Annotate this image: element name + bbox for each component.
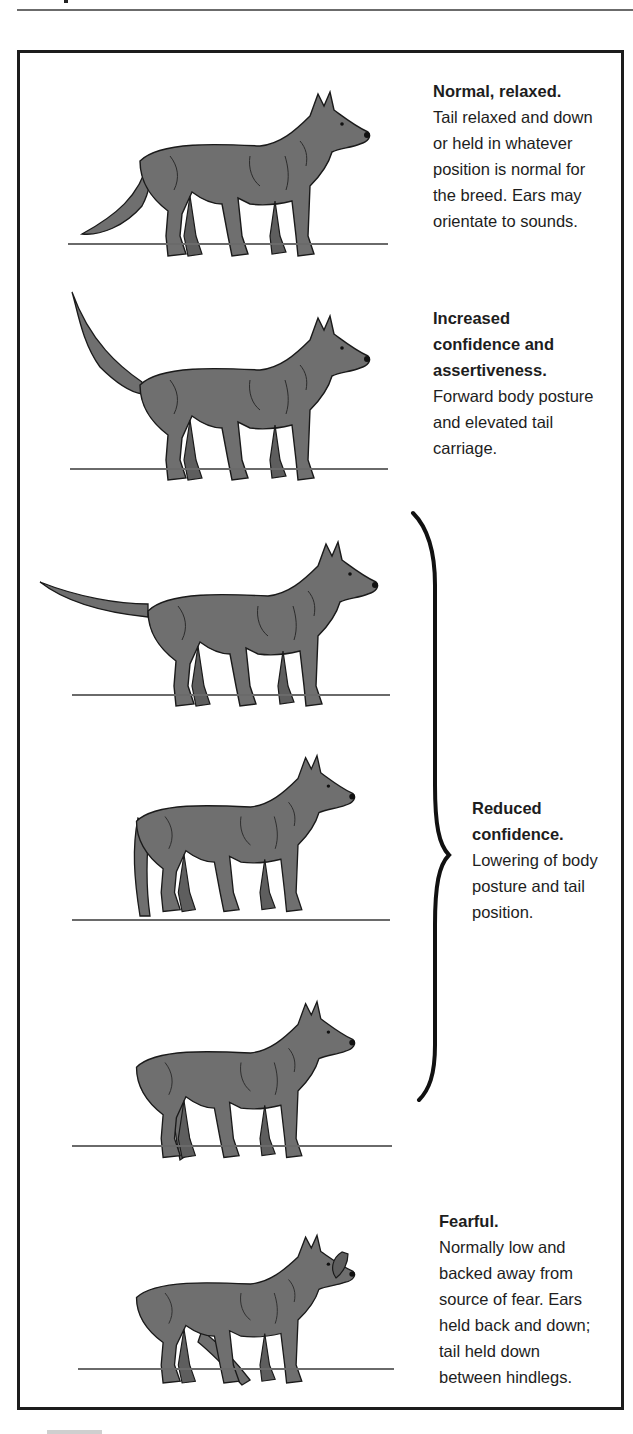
caption-line: and elevated tail bbox=[433, 409, 623, 435]
caption-title: Fearful. bbox=[439, 1208, 624, 1234]
ground-line bbox=[68, 243, 388, 245]
caption-line: Tail relaxed and down bbox=[433, 104, 623, 130]
caption-line: tail held down bbox=[439, 1338, 624, 1364]
caption-line: orientate to sounds. bbox=[433, 208, 623, 234]
caption-title: Normal, relaxed. bbox=[433, 78, 623, 104]
caption-line: the breed. Ears may bbox=[433, 182, 623, 208]
header-text-fragment bbox=[64, 0, 68, 3]
caption-line: Lowering of body bbox=[472, 847, 627, 873]
caption-line: position. bbox=[472, 899, 627, 925]
header-rule bbox=[17, 9, 633, 11]
caption-normal-relaxed: Normal, relaxed. Tail relaxed and down o… bbox=[433, 78, 623, 234]
caption-title: Increased bbox=[433, 305, 623, 331]
caption-title: confidence and bbox=[433, 331, 623, 357]
caption-line: position is normal for bbox=[433, 156, 623, 182]
ground-line bbox=[70, 468, 388, 470]
caption-line: source of fear. Ears bbox=[439, 1286, 624, 1312]
caption-line: backed away from bbox=[439, 1260, 624, 1286]
caption-title: Reduced bbox=[472, 795, 627, 821]
ground-line bbox=[72, 694, 390, 696]
caption-line: between hindlegs. bbox=[439, 1364, 624, 1390]
caption-line: Forward body posture bbox=[433, 383, 623, 409]
caption-line: held back and down; bbox=[439, 1312, 624, 1338]
caption-reduced-confidence: Reduced confidence. Lowering of body pos… bbox=[472, 795, 627, 925]
dog-fearful-illustration bbox=[110, 1220, 390, 1400]
caption-title: assertiveness. bbox=[433, 357, 623, 383]
ground-line bbox=[72, 1145, 392, 1147]
caption-increased-confidence: Increased confidence and assertiveness. … bbox=[433, 305, 623, 461]
dog-reduced-confidence-3-illustration bbox=[110, 980, 390, 1180]
caption-line: posture and tail bbox=[472, 873, 627, 899]
ground-line bbox=[78, 1368, 394, 1370]
footer-tab-fragment bbox=[47, 1430, 102, 1434]
curly-brace-bracket bbox=[405, 505, 455, 1105]
caption-line: Normally low and bbox=[439, 1234, 624, 1260]
ground-line bbox=[72, 919, 390, 921]
caption-line: carriage. bbox=[433, 435, 623, 461]
caption-line: or held in whatever bbox=[433, 130, 623, 156]
caption-title: confidence. bbox=[472, 821, 627, 847]
dog-reduced-confidence-2-illustration bbox=[110, 738, 390, 938]
caption-fearful: Fearful. Normally low and backed away fr… bbox=[439, 1208, 624, 1390]
